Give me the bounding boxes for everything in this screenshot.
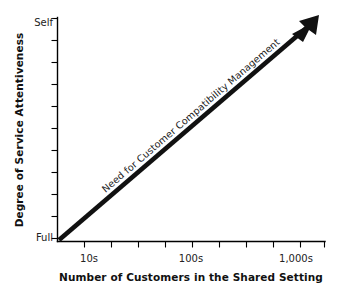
x-axis-tick-label-1000s: 1,000s [279,253,313,264]
y-axis-title: Degree of Service Attentiveness [13,33,25,228]
x-axis-title: Number of Customers in the Shared Settin… [59,271,323,283]
chart-canvas: Self Full 10s 100s 1,000s Degree of Serv… [0,0,340,292]
x-axis-tick-label-100s: 100s [179,253,203,264]
chart-figure: Self Full 10s 100s 1,000s Degree of Serv… [0,0,340,292]
y-axis-label-top: Self [34,17,53,28]
x-axis-tick-label-10s: 10s [80,253,98,264]
y-axis-label-bottom: Full [36,232,53,243]
